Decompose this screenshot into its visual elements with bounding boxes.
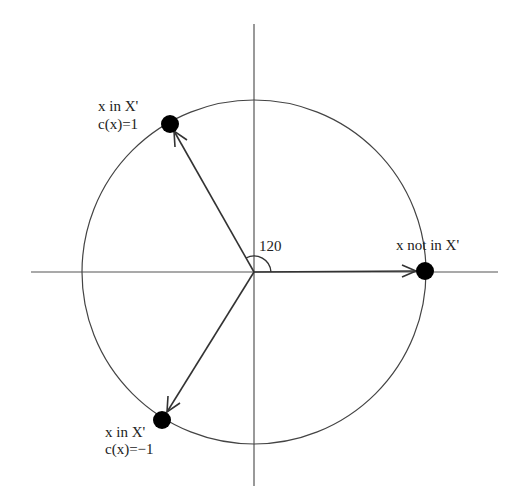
point-right	[416, 262, 434, 280]
point-bottom-left	[153, 411, 171, 429]
label-right-line1: x not in X'	[396, 237, 459, 253]
vector-bottom-left	[167, 272, 254, 412]
angle-label: 120	[259, 238, 282, 254]
vector-top-left	[174, 131, 254, 272]
label-bottom-left-line1: x in X'	[105, 424, 146, 440]
vector-right	[254, 265, 416, 277]
label-top-left-line2: c(x)=1	[98, 116, 138, 133]
point-top-left	[161, 115, 179, 133]
label-top-left-line1: x in X'	[98, 98, 139, 114]
label-bottom-left-line2: c(x)=−1	[105, 441, 154, 458]
diagram-canvas: 120 x in X' c(x)=1 x not in X' x in X' c…	[0, 0, 516, 504]
